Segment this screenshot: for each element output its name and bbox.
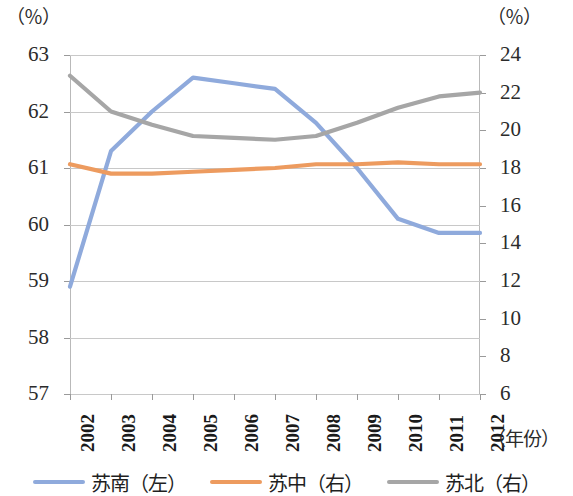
x-axis-tick-label: 2007 xyxy=(282,414,304,452)
right-axis-tick xyxy=(480,243,486,244)
x-axis-tick-label: 2005 xyxy=(200,414,222,452)
right-axis-tick xyxy=(480,356,486,357)
right-axis-tick-label: 6 xyxy=(500,383,511,404)
x-axis-tick xyxy=(439,394,440,400)
right-axis-tick-label: 18 xyxy=(500,157,521,178)
chart-legend: 苏南（左）苏中（右）苏北（右） xyxy=(0,468,573,496)
right-axis-tick-label: 12 xyxy=(500,270,521,291)
x-axis-tick-label: 2009 xyxy=(364,414,386,452)
left-axis-unit-label: （％） xyxy=(6,2,60,29)
x-axis-tick xyxy=(316,394,317,400)
legend-label: 苏中（右） xyxy=(268,468,363,496)
legend-item[interactable]: 苏中（右） xyxy=(210,468,363,496)
x-axis-tick xyxy=(111,394,112,400)
right-axis-tick xyxy=(480,281,486,282)
right-axis-tick-label: 24 xyxy=(500,44,521,65)
x-axis-tick xyxy=(357,394,358,400)
right-axis-unit-label: （％） xyxy=(487,2,541,29)
right-axis-tick-label: 20 xyxy=(500,119,521,140)
right-axis-tick-label: 16 xyxy=(500,195,521,216)
right-axis-tick-label: 14 xyxy=(500,232,521,253)
x-axis-tick xyxy=(152,394,153,400)
plot-area xyxy=(70,55,480,394)
legend-swatch-icon xyxy=(210,480,262,484)
legend-label: 苏南（左） xyxy=(91,468,186,496)
x-axis-tick-label: 2006 xyxy=(241,414,263,452)
right-axis-tick xyxy=(480,130,486,131)
right-axis-tick-label: 22 xyxy=(500,82,521,103)
legend-label: 苏北（右） xyxy=(445,468,540,496)
legend-item[interactable]: 苏南（左） xyxy=(33,468,186,496)
x-axis-tick-label: 2011 xyxy=(446,415,468,452)
legend-swatch-icon xyxy=(387,480,439,484)
series-line xyxy=(70,162,480,173)
series-line xyxy=(70,78,480,287)
right-axis-tick xyxy=(480,206,486,207)
x-axis-tick xyxy=(234,394,235,400)
right-axis-tick xyxy=(480,55,486,56)
x-axis-tick-label: 2008 xyxy=(323,414,345,452)
right-axis-tick-label: 8 xyxy=(500,345,511,366)
x-axis-tick xyxy=(275,394,276,400)
right-axis-tick xyxy=(480,319,486,320)
x-axis-title: （年份） xyxy=(487,424,559,451)
x-axis-tick-label: 2003 xyxy=(118,414,140,452)
x-axis-tick xyxy=(398,394,399,400)
x-axis-tick-label: 2010 xyxy=(405,414,427,452)
x-axis-tick xyxy=(480,394,481,400)
x-axis-tick xyxy=(70,394,71,400)
x-axis-tick xyxy=(193,394,194,400)
x-axis-tick-label: 2004 xyxy=(159,414,181,452)
legend-item[interactable]: 苏北（右） xyxy=(387,468,540,496)
right-axis-tick-label: 10 xyxy=(500,308,521,329)
line-chart: （％） （％） 63626160595857 24222018161412108… xyxy=(0,0,573,496)
x-axis-tick-label: 2002 xyxy=(77,414,99,452)
right-axis-tick xyxy=(480,168,486,169)
series-layer xyxy=(70,55,480,394)
legend-swatch-icon xyxy=(33,480,85,484)
